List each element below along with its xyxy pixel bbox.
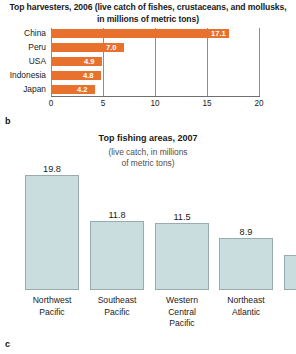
horizontal-bar-x-axis: 0 5 10 15 20 — [51, 96, 260, 112]
bar-category-label: Western Central Pacific — [148, 295, 216, 330]
bar-column: 8.9 Northeast Atlantic — [219, 238, 273, 290]
bar-column: 19.8 Northwest Pacific — [25, 175, 79, 290]
bar-value-label: 11.5 — [155, 211, 209, 223]
bar-category-label: Eastern Indian Ocean — [277, 295, 296, 330]
bar-fill — [25, 175, 79, 290]
bar-value-label: 4.2 — [77, 84, 88, 95]
bar-value-label: 8.9 — [219, 226, 273, 238]
gridline-10 — [155, 28, 156, 96]
horizontal-bar-plot-area: China 17.1 Peru 7.0 USA 4.9 Indonesia 4.… — [51, 28, 260, 96]
x-axis-line — [51, 96, 260, 97]
bar-category-label: Indonesia — [10, 69, 46, 81]
bar-column: 11.5 Western Central Pacific — [155, 223, 209, 290]
panel-c-top-fishing-areas-chart: Top fishing areas, 2007 (live catch, in … — [0, 130, 296, 340]
panel-letter-c: c — [5, 339, 10, 349]
bar-value-label: 6.0 — [284, 243, 296, 255]
bar-category-label: Peru — [28, 41, 46, 53]
bar-value-label: 7.0 — [106, 42, 117, 53]
x-tick-label: 20 — [254, 99, 263, 108]
bar-category-label: Japan — [23, 83, 46, 95]
x-tick-label: 5 — [101, 99, 106, 108]
bar-category-label: Southeast Pacific — [83, 295, 151, 318]
panel-b-top-harvesters-chart: Top harvesters, 2006 (live catch of fish… — [0, 0, 296, 122]
bar-value-label: 4.9 — [84, 56, 95, 67]
bar-fill — [51, 29, 229, 38]
vertical-bar-plot-area: 19.8 Northwest Pacific 11.8 Southeast Pa… — [0, 130, 296, 340]
panel-b-chart-title: Top harvesters, 2006 (live catch of fish… — [8, 2, 288, 25]
bar-column: 6.0 Eastern Indian Ocean — [284, 255, 296, 290]
bar-fill — [219, 238, 273, 290]
bar-fill — [284, 255, 296, 290]
x-tick-label: 10 — [150, 99, 159, 108]
bar-value-label: 17.1 — [211, 28, 226, 39]
bar-value-label: 4.8 — [83, 70, 94, 81]
bar-fill — [155, 223, 209, 290]
x-tick-label: 15 — [202, 99, 211, 108]
bar-category-label: Northeast Atlantic — [212, 295, 280, 318]
x-tick-label: 0 — [49, 99, 54, 108]
bar-value-label: 19.8 — [25, 163, 79, 175]
bar-value-label: 11.8 — [90, 209, 144, 221]
bar-fill — [90, 221, 144, 290]
bar-category-label: USA — [29, 55, 46, 67]
gridline-5 — [103, 28, 104, 96]
gridline-20 — [259, 28, 260, 96]
bar-column: 11.8 Southeast Pacific — [90, 221, 144, 290]
bar-category-label: China — [24, 27, 46, 39]
gridline-15 — [207, 28, 208, 96]
panel-letter-b: b — [5, 116, 11, 126]
bar-fill — [51, 85, 95, 94]
bar-category-label: Northwest Pacific — [18, 295, 86, 318]
